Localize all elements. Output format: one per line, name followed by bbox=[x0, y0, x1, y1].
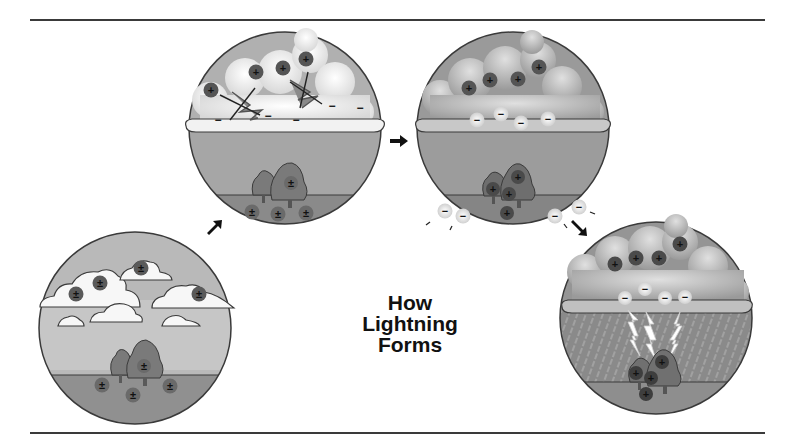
stage-3-charge-buildup: + + + + − − − − + + + bbox=[410, 30, 620, 235]
arrow-icon bbox=[390, 135, 408, 147]
svg-text:±: ± bbox=[99, 379, 105, 391]
svg-text:+: + bbox=[515, 73, 521, 85]
stage-1-fair-weather: ± ± ± ± ± ± ± ± bbox=[30, 230, 240, 435]
diagram-title: How Lightning Forms bbox=[352, 292, 468, 355]
svg-text:−: − bbox=[328, 99, 335, 113]
svg-text:−: − bbox=[474, 114, 480, 126]
svg-text:+: + bbox=[515, 171, 521, 183]
arrow-icon bbox=[207, 220, 222, 235]
svg-text:−: − bbox=[682, 291, 688, 303]
svg-text:−: − bbox=[214, 113, 221, 127]
svg-text:−: − bbox=[662, 292, 668, 304]
svg-text:+: + bbox=[466, 82, 472, 94]
svg-text:+: + bbox=[487, 74, 493, 86]
svg-text:−: − bbox=[356, 101, 363, 115]
svg-text:+: + bbox=[280, 62, 286, 74]
svg-text:−: − bbox=[460, 210, 466, 222]
title-line-2: Lightning bbox=[352, 313, 468, 334]
svg-text:−: − bbox=[642, 283, 648, 295]
svg-text:±: ± bbox=[97, 277, 103, 289]
svg-text:+: + bbox=[659, 356, 665, 368]
svg-text:+: + bbox=[506, 188, 512, 200]
svg-text:±: ± bbox=[141, 360, 147, 372]
svg-text:+: + bbox=[643, 388, 649, 400]
svg-text:+: + bbox=[633, 367, 639, 379]
svg-text:±: ± bbox=[303, 207, 309, 219]
svg-text:±: ± bbox=[73, 288, 79, 300]
stage-4-lightning-strike: + + + + − − − − bbox=[555, 214, 765, 422]
stage-2-charge-separation: + + + + − − − − − ± ± ± ± bbox=[180, 28, 390, 235]
svg-text:+: + bbox=[633, 252, 639, 264]
svg-text:+: + bbox=[648, 372, 654, 384]
title-line-3: Forms bbox=[352, 334, 468, 355]
svg-text:±: ± bbox=[138, 262, 144, 274]
arrow-icon bbox=[571, 220, 587, 236]
svg-text:±: ± bbox=[167, 380, 173, 392]
svg-text:+: + bbox=[504, 207, 510, 219]
svg-text:−: − bbox=[552, 210, 558, 222]
svg-text:+: + bbox=[612, 258, 618, 270]
svg-text:−: − bbox=[498, 108, 504, 120]
svg-text:+: + bbox=[303, 53, 309, 65]
svg-text:−: − bbox=[622, 292, 628, 304]
svg-text:−: − bbox=[442, 205, 448, 217]
svg-text:+: + bbox=[656, 252, 662, 264]
svg-text:−: − bbox=[518, 117, 524, 129]
svg-text:−: − bbox=[576, 201, 582, 213]
svg-text:+: + bbox=[536, 61, 542, 73]
svg-text:±: ± bbox=[196, 288, 202, 300]
svg-text:±: ± bbox=[130, 389, 136, 401]
svg-text:+: + bbox=[253, 66, 259, 78]
svg-text:+: + bbox=[208, 84, 214, 96]
svg-text:±: ± bbox=[249, 206, 255, 218]
svg-text:+: + bbox=[490, 183, 496, 195]
svg-text:±: ± bbox=[275, 208, 281, 220]
svg-text:−: − bbox=[545, 113, 551, 125]
svg-text:+: + bbox=[677, 238, 683, 250]
diagram-canvas: ± ± ± ± ± ± ± ± bbox=[0, 0, 795, 446]
svg-text:−: − bbox=[292, 113, 299, 127]
svg-text:−: − bbox=[264, 109, 271, 123]
title-line-1: How bbox=[352, 292, 468, 313]
svg-text:±: ± bbox=[288, 177, 294, 189]
